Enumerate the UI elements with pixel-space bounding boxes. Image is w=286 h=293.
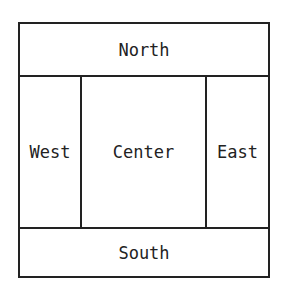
center-region: Center — [82, 77, 207, 227]
north-region: North — [20, 24, 268, 77]
border-layout-frame: North West Center East South — [18, 22, 270, 278]
west-region: West — [20, 77, 82, 227]
south-region: South — [20, 227, 268, 276]
east-region: East — [207, 77, 268, 227]
